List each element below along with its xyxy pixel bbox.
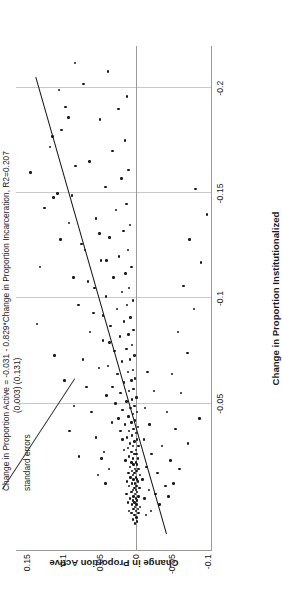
- scatter-point: [98, 367, 101, 370]
- scatter-point: [73, 405, 76, 408]
- scatter-point: [200, 261, 203, 264]
- scatter-point: [131, 398, 134, 401]
- scatter-point: [143, 438, 146, 441]
- scatter-point: [164, 485, 167, 488]
- x-tick-label-1: -0.1: [213, 291, 225, 306]
- scatter-point: [133, 440, 136, 443]
- scatter-point: [144, 407, 147, 410]
- scatter-point: [194, 188, 197, 191]
- scatter-point: [132, 495, 135, 498]
- scatter-point: [172, 482, 175, 485]
- scatter-point: [29, 171, 32, 174]
- scatter-point: [82, 83, 85, 86]
- scatter-point: [97, 474, 100, 477]
- scatter-point: [132, 329, 135, 332]
- scatter-point: [128, 287, 131, 290]
- scatter-point: [121, 438, 124, 441]
- scatter-point: [127, 249, 130, 252]
- scatter-point: [132, 499, 135, 502]
- scatter-point: [124, 272, 127, 275]
- scatter-point: [130, 491, 133, 494]
- scatter-point: [169, 459, 172, 462]
- scatter-point: [171, 373, 174, 376]
- fit-line-segment: [35, 77, 167, 534]
- rotated-figure-wrapper: Change in Proportion Active = -0.031 - 0…: [0, 0, 279, 609]
- scatter-point: [105, 295, 108, 298]
- scatter-point: [92, 312, 95, 315]
- scatter-point: [125, 203, 128, 206]
- gridline-x-1: [16, 298, 212, 299]
- y-axis-line: [16, 550, 212, 551]
- scatter-point: [107, 365, 110, 368]
- scatter-point: [174, 428, 177, 431]
- scatter-point: [129, 466, 132, 469]
- scatter-point: [129, 497, 132, 500]
- scatter-point: [182, 285, 185, 288]
- scatter-point: [111, 421, 114, 424]
- scatter-point: [137, 457, 140, 460]
- scatter-point: [87, 280, 90, 283]
- scatter-point: [135, 396, 138, 399]
- scatter-plot-figure: Change in Proportion Active = -0.031 - 0…: [0, 0, 279, 609]
- scatter-point: [82, 358, 85, 361]
- scatter-point: [89, 331, 92, 334]
- scatter-point: [127, 333, 130, 336]
- scatter-point: [105, 259, 108, 262]
- scatter-point: [100, 259, 103, 262]
- gridline-x-2: [16, 192, 212, 193]
- scatter-point: [95, 217, 98, 220]
- scatter-point: [126, 436, 129, 439]
- scatter-point: [116, 373, 119, 376]
- scatter-point: [135, 485, 138, 488]
- scatter-point: [123, 320, 126, 323]
- scatter-point: [166, 411, 169, 414]
- scatter-point: [71, 194, 74, 197]
- scatter-point: [56, 192, 59, 195]
- scatter-point: [167, 495, 170, 498]
- scatter-point: [133, 354, 136, 357]
- scatter-point: [135, 461, 138, 464]
- scatter-point: [148, 423, 151, 426]
- scatter-point: [193, 308, 196, 311]
- scatter-point: [114, 402, 117, 405]
- x-tick-label-2: -0.15: [213, 183, 225, 203]
- scatter-point: [135, 476, 138, 479]
- scatter-point: [135, 503, 138, 506]
- scatter-point: [148, 489, 151, 492]
- plot-area: -0.1-0.0500.050.10.15-0.05-0.1-0.15-0.2: [16, 46, 212, 551]
- scatter-point: [60, 129, 63, 132]
- scatter-point: [127, 415, 130, 418]
- scatter-point: [104, 482, 107, 485]
- scatter-point: [107, 70, 110, 73]
- scatter-point: [111, 150, 114, 153]
- scatter-point: [58, 89, 61, 92]
- scatter-point: [68, 430, 71, 433]
- scatter-point: [116, 308, 119, 311]
- scatter-point: [127, 501, 130, 504]
- scatter-point: [119, 430, 122, 433]
- scatter-point: [117, 108, 120, 111]
- scatter-point: [132, 457, 135, 460]
- scatter-point: [129, 358, 132, 361]
- scatter-point: [122, 230, 125, 233]
- y-axis-title: Change in Proportion Active: [16, 558, 212, 569]
- scatter-point: [131, 482, 134, 485]
- scatter-point: [52, 196, 55, 199]
- scatter-point: [132, 299, 135, 302]
- scatter-point: [127, 472, 130, 475]
- scatter-point: [206, 213, 209, 216]
- scatter-point: [129, 224, 132, 227]
- scatter-point: [100, 457, 103, 460]
- scatter-point: [88, 160, 91, 163]
- scatter-point: [119, 392, 122, 395]
- scatter-point: [186, 352, 189, 355]
- scatter-point: [137, 468, 140, 471]
- regression-equation-line1: Change in Proportion Active = -0.031 - 0…: [1, 151, 12, 491]
- scatter-point: [187, 442, 190, 445]
- scatter-point: [128, 485, 131, 488]
- scatter-point: [59, 238, 62, 241]
- scatter-point: [132, 489, 135, 492]
- scatter-point: [161, 445, 164, 448]
- scatter-point: [131, 434, 134, 437]
- scatter-point: [150, 453, 153, 456]
